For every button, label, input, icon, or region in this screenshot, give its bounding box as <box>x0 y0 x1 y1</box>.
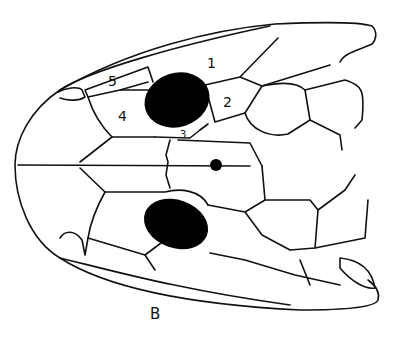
scale-small-lower <box>60 232 88 255</box>
supraocular-rim-bottom <box>60 258 290 305</box>
parietal-eye-dot <box>210 159 222 171</box>
scale-label-4: 4 <box>118 108 127 124</box>
figure-caption: B <box>150 305 160 323</box>
scale-lower-tip <box>340 258 375 288</box>
scale-frontal-lower <box>80 168 208 205</box>
scale-label-5: 5 <box>108 73 117 89</box>
scale-small-upper <box>58 88 85 100</box>
eye-socket-lower <box>137 190 215 258</box>
scale-frontal-upper <box>80 137 262 166</box>
eye-socket-upper <box>137 64 216 136</box>
head-scale-diagram: 1 2 3 4 5 <box>0 0 399 337</box>
scales-lower-far-right <box>315 175 368 248</box>
scale-upper-right <box>305 80 363 150</box>
scales-bottom <box>210 253 340 285</box>
scale-label-2: 2 <box>223 94 232 110</box>
suture-line <box>166 140 170 188</box>
scale-label-3: 3 <box>180 129 186 140</box>
scale-label-1: 1 <box>207 55 216 71</box>
scale-large-upper <box>245 83 310 135</box>
